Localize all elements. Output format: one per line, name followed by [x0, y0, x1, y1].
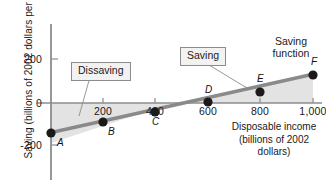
- x-tick-label-1000: 1,000: [299, 105, 326, 117]
- point-label-B: B: [108, 126, 115, 137]
- x-tick-label-600: 600: [199, 105, 217, 117]
- x-tick-label-800: 800: [251, 105, 269, 117]
- x-axis-title-line2: (billions of 2002 dollars): [222, 134, 326, 159]
- point-label-C: C: [152, 116, 159, 127]
- point-label-E: E: [257, 73, 264, 84]
- saving-function-label-line1: Saving: [262, 35, 320, 47]
- dissaving-callout: Dissaving: [71, 62, 131, 81]
- x-axis-title-line1: Disposable income: [222, 121, 326, 134]
- point-label-A: A: [57, 137, 64, 148]
- chart-canvas: [0, 0, 326, 193]
- data-point-E: [255, 87, 264, 96]
- saving-function-label: Saving function: [262, 35, 320, 59]
- x-axis-title: Disposable income (billions of 2002 doll…: [222, 121, 326, 159]
- y-axis-title: Saving (billions of 2002 dollars per yea…: [23, 9, 34, 159]
- point-label-D: D: [205, 84, 212, 95]
- saving-callout: Saving: [180, 47, 226, 66]
- saving-function-chart: 200 0 -200 200 400 600 800 1,000 A B C D…: [0, 0, 326, 193]
- data-point-B: [98, 117, 107, 126]
- x-tick-label-200: 200: [94, 105, 112, 117]
- data-point-F: [308, 70, 317, 79]
- data-point-A: [46, 128, 55, 137]
- saving-function-label-line2: function: [262, 47, 320, 59]
